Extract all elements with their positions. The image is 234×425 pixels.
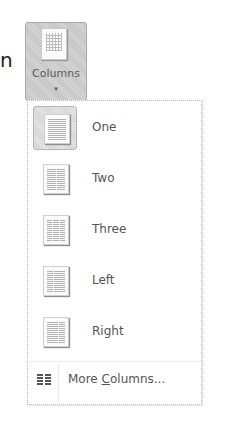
menu-item-label: One [92,120,116,134]
left-column-icon [43,266,69,296]
columns-button[interactable]: Columns ▾ [25,22,87,101]
menu-item-label: Left [92,273,115,287]
selected-highlight [33,106,77,150]
menu-item-label: Two [92,171,115,185]
menu-item-label: Three [92,222,126,236]
menu-item-left[interactable]: Left [31,259,198,303]
icon-frame [33,310,77,354]
menu-item-label: Right [92,324,124,338]
three-columns-icon [43,215,69,245]
icon-frame [33,157,77,201]
menu-item-three[interactable]: Three [31,208,198,252]
icon-frame [33,259,77,303]
menu-gutter [28,363,59,403]
icon-frame [33,208,77,252]
more-columns-menu-item[interactable]: More Columns... [28,363,201,403]
two-columns-icon [43,164,69,194]
columns-dropdown-menu: One Two Three Left Right [27,100,202,405]
menu-separator [29,361,200,362]
more-columns-icon [37,373,51,385]
menu-item-one[interactable]: One [31,106,198,150]
columns-button-label: Columns [26,67,86,80]
right-column-icon [43,317,69,347]
chevron-down-icon: ▾ [26,85,86,93]
partial-text: n [0,50,13,70]
one-column-icon [44,114,70,144]
menu-item-right[interactable]: Right [31,310,198,354]
menu-item-two[interactable]: Two [31,157,198,201]
columns-icon [41,28,67,60]
more-columns-label: More Columns... [68,372,165,386]
